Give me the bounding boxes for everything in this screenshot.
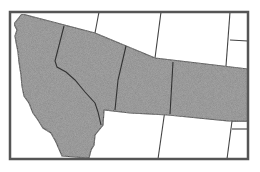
map <box>0 0 260 172</box>
